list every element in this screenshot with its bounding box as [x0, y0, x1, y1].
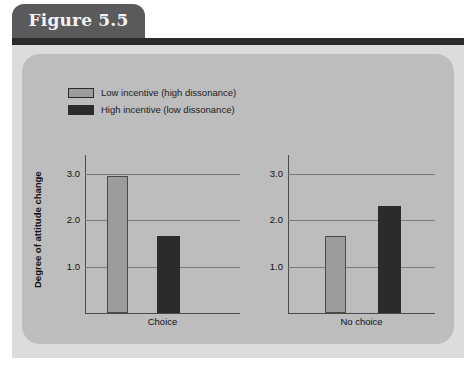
y-axis-title: Degree of attitude change — [30, 150, 44, 310]
bar-choice-low-incentive — [107, 176, 128, 313]
chart-legend: Low incentive (high dissonance) High inc… — [68, 85, 288, 119]
x-axis-line-right — [288, 313, 435, 314]
figure-container: Figure 5.5 Low incentive (high dissonanc… — [0, 0, 474, 377]
figure-title-tab: Figure 5.5 — [12, 4, 145, 40]
legend-swatch-icon-high-incentive — [68, 105, 94, 115]
y-tick-label-3-left: 3.0 — [67, 168, 80, 179]
legend-label-high-incentive: High incentive (low dissonance) — [101, 104, 235, 115]
header-divider — [12, 38, 464, 45]
bar-no-choice-low-incentive — [325, 236, 346, 313]
legend-item-low-incentive: Low incentive (high dissonance) — [68, 85, 288, 100]
bar-no-choice-high-incentive — [378, 206, 401, 313]
x-axis-label-no-choice: No choice — [288, 316, 435, 327]
x-axis-line-left — [85, 313, 240, 314]
y-tick-label-2-right: 2.0 — [270, 214, 283, 225]
bars-layer-no-choice — [289, 155, 435, 313]
legend-item-high-incentive: High incentive (low dissonance) — [68, 102, 288, 117]
y-tick-label-1-right: 1.0 — [270, 261, 283, 272]
chart-panel-choice: 3.0 2.0 1.0 Choice — [55, 150, 240, 340]
y-tick-label-2-left: 2.0 — [67, 214, 80, 225]
legend-swatch-icon-low-incentive — [68, 88, 94, 98]
page-title: Figure 5.5 — [12, 10, 145, 30]
bar-choice-high-incentive — [157, 236, 180, 313]
legend-label-low-incentive: Low incentive (high dissonance) — [101, 87, 236, 98]
y-tick-label-3-right: 3.0 — [270, 168, 283, 179]
chart-panel-no-choice: 3.0 2.0 1.0 No choice — [258, 150, 435, 340]
x-axis-label-choice: Choice — [85, 316, 240, 327]
bars-layer-choice — [86, 155, 240, 313]
y-tick-label-1-left: 1.0 — [67, 261, 80, 272]
